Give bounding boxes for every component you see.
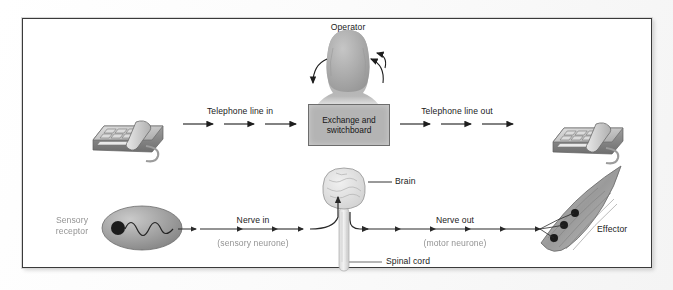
effector-label: Effector [597, 224, 627, 235]
nerve-out-sublabel: (motor neurone) [423, 238, 486, 249]
spinal-cord-label: Spinal cord [386, 256, 430, 267]
exchange-and-switchboard-box: Exchange and switchboard [308, 104, 390, 146]
operator-label: Operator [331, 22, 366, 33]
nerve-in-sublabel: (sensory neurone) [217, 238, 288, 249]
nerve-out-label: Nerve out [436, 215, 474, 226]
sensory-receptor-label-line1: Sensory [56, 215, 88, 226]
sensory-receptor-label-line2: receptor [56, 226, 88, 237]
telephone-line-out-label: Telephone line out [421, 106, 493, 117]
telephone-line-in-label: Telephone line in [207, 106, 273, 117]
nerve-in-label: Nerve in [237, 215, 270, 226]
brain-label: Brain [395, 176, 416, 187]
figure-canvas: Operator Telephone line in Telephone lin… [0, 0, 673, 290]
exchange-line1: Exchange and [322, 115, 376, 125]
exchange-line2: switchboard [322, 125, 376, 135]
